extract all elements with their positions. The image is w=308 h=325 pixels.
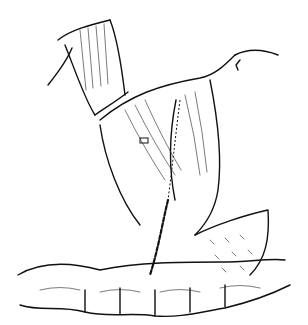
mesentery <box>195 210 268 275</box>
retracted-flap <box>48 20 128 115</box>
stomach <box>100 50 278 235</box>
colon <box>18 259 290 316</box>
medical-illustration <box>0 0 308 325</box>
illustration-svg <box>0 0 308 325</box>
